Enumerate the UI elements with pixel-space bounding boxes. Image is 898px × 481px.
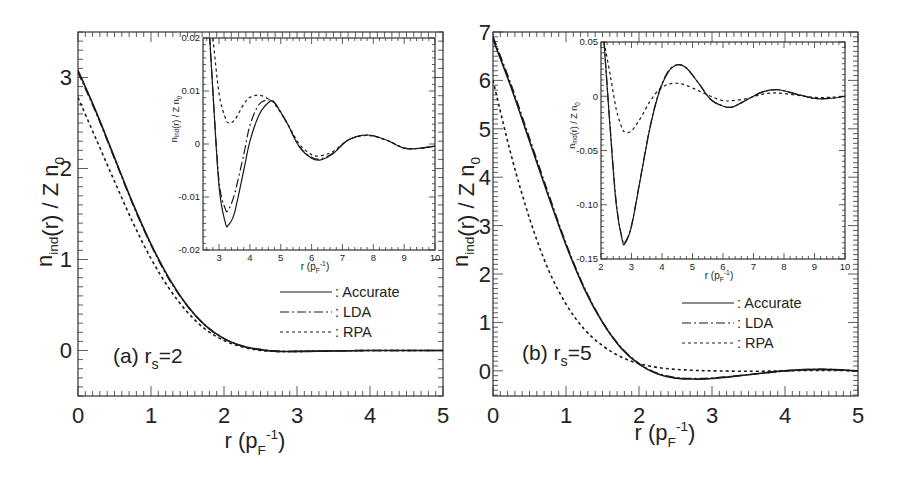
y-tick-label: 3 (479, 214, 491, 239)
panel-annotation: (b) rs=5 (522, 341, 592, 369)
y-tick-label: 0 (593, 91, 598, 102)
x-tick-label: 8 (781, 261, 786, 272)
x-tick-label: 4 (779, 403, 791, 428)
y-tick-label: 7 (479, 20, 491, 45)
x-tick-label: 5 (690, 261, 695, 272)
y-tick-label: 0 (479, 359, 491, 384)
y-tick-label: 0 (195, 138, 200, 149)
x-tick-label: 0 (72, 403, 84, 428)
y-tick-label: 0.05 (580, 36, 599, 47)
x-tick-label: 3 (216, 252, 221, 263)
plot-frame (601, 42, 845, 259)
x-tick-label: 5 (852, 403, 864, 428)
inset-a: 3456789100.020.010-0.01-0.02nind(r) / Z … (169, 0, 440, 274)
legend-label-rpa: : RPA (737, 335, 774, 351)
legend-label-lda: : LDA (737, 315, 774, 331)
y-tick-label: 1 (60, 247, 72, 272)
x-tick-label: 1 (145, 403, 157, 428)
x-tick-label: 7 (340, 252, 345, 263)
legend-label-accurate: : Accurate (737, 295, 801, 311)
x-tick-label: 1 (560, 403, 572, 428)
y-tick-label: 6 (479, 68, 491, 93)
y-tick-label: 0.02 (182, 32, 201, 43)
x-tick-label: 9 (402, 252, 407, 263)
y-tick-label: 0.01 (182, 85, 201, 96)
inset-y-axis-title: nind(r) / Z n0 (567, 102, 581, 149)
legend-label-lda: : LDA (335, 304, 372, 320)
y-tick-label: -0.15 (576, 253, 598, 264)
x-tick-label: 10 (430, 252, 441, 263)
x-tick-label: 7 (751, 261, 756, 272)
x-tick-label: 3 (706, 403, 718, 428)
plot-frame (203, 38, 435, 250)
inset-x-axis-title: r (pF-1) (301, 260, 329, 274)
x-tick-label: 2 (598, 261, 603, 272)
x-tick-label: 8 (371, 252, 376, 263)
x-tick-label: 3 (629, 261, 634, 272)
x-tick-label: 4 (659, 261, 664, 272)
x-tick-label: 0 (487, 403, 499, 428)
x-axis-title: r (pF-1) (225, 427, 286, 458)
x-tick-label: 2 (218, 403, 230, 428)
inset-y-axis-title: nind(r) / Z n0 (169, 95, 183, 142)
legend-label-accurate: : Accurate (335, 284, 399, 300)
legend-label-rpa: : RPA (335, 324, 372, 340)
y-tick-label: -0.02 (178, 244, 200, 255)
y-tick-label: -0.01 (178, 191, 200, 202)
y-tick-label: 3 (60, 65, 72, 90)
y-tick-label: 5 (479, 117, 491, 142)
inset-b: 23456789100.050-0.05-0.10-0.15nind(r) / … (567, 36, 850, 283)
y-axis-title: nind(r) / Z n0 (448, 157, 483, 268)
y-tick-label: 1 (479, 310, 491, 335)
x-axis-title: r (pF-1) (635, 419, 696, 450)
panel-annotation: (a) rs=2 (113, 344, 183, 372)
x-tick-label: 3 (291, 403, 303, 428)
y-tick-label: -0.05 (576, 145, 598, 156)
figure: 0123450123nind(r) / Z n0r (pF-1)(a) rs=2… (0, 0, 898, 481)
panel-a: 0123450123nind(r) / Z n0r (pF-1)(a) rs=2… (32, 0, 449, 458)
y-tick-label: 0 (60, 338, 72, 363)
x-tick-label: 10 (840, 261, 851, 272)
inset-x-axis-title: r (pF-1) (705, 269, 733, 283)
x-tick-label: 4 (247, 252, 252, 263)
y-tick-label: -0.10 (576, 199, 598, 210)
y-tick-label: 4 (479, 165, 491, 190)
x-tick-label: 5 (278, 252, 283, 263)
x-tick-label: 4 (364, 403, 376, 428)
y-tick-label: 2 (479, 262, 491, 287)
x-tick-label: 5 (437, 403, 449, 428)
panel-b: 01234501234567nind(r) / Z n0r (pF-1)(b) … (448, 20, 864, 450)
x-tick-label: 9 (812, 261, 817, 272)
